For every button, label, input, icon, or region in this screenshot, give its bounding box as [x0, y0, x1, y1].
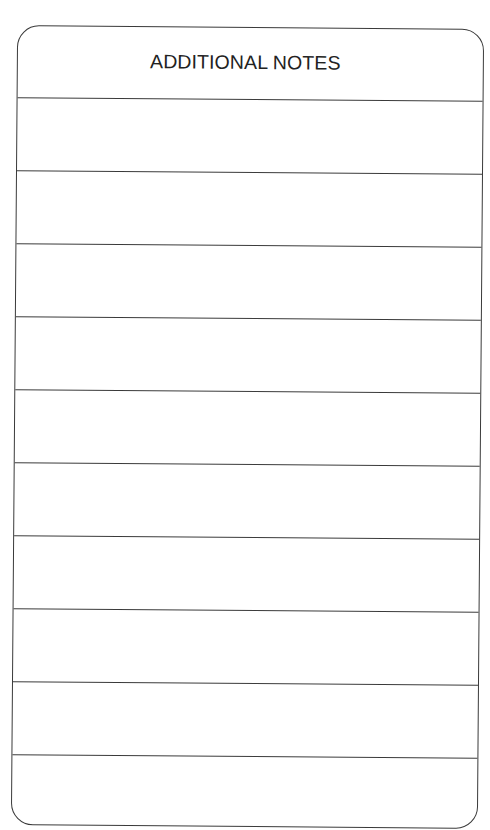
note-line-2[interactable]	[16, 171, 482, 248]
note-line-7[interactable]	[14, 536, 480, 613]
notes-header: ADDITIONAL NOTES	[18, 26, 484, 102]
note-line-10[interactable]	[12, 755, 478, 828]
note-line-8[interactable]	[13, 609, 479, 686]
note-line-6[interactable]	[14, 463, 480, 540]
note-line-5[interactable]	[15, 390, 481, 467]
notes-title: ADDITIONAL NOTES	[150, 50, 341, 74]
note-line-4[interactable]	[15, 317, 481, 394]
note-line-1[interactable]	[17, 98, 483, 175]
notes-card: ADDITIONAL NOTES	[11, 25, 484, 829]
note-line-3[interactable]	[16, 244, 482, 321]
note-line-9[interactable]	[12, 682, 478, 759]
